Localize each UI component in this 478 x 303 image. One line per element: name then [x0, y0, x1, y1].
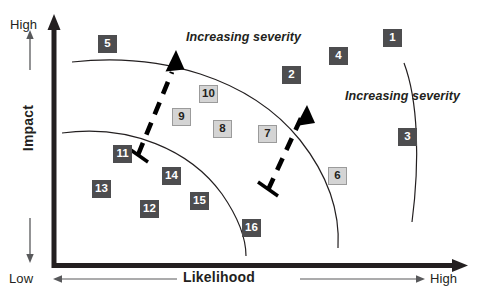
- increasing-severity-arrow-1: [128, 50, 185, 162]
- increasing-severity-label-1: Increasing severity: [186, 30, 301, 44]
- risk-box-10: 10: [199, 85, 218, 103]
- risk-matrix-canvas: [0, 0, 478, 303]
- severity-tick-2: [258, 182, 278, 196]
- y-axis-high-label: High: [10, 17, 37, 32]
- y-axis: [48, 14, 61, 268]
- impact-direction-arrow-low: [26, 218, 33, 263]
- x-axis: [52, 259, 468, 272]
- y-axis-title: Impact: [20, 93, 36, 163]
- y-axis-arrowhead: [48, 14, 61, 30]
- risk-matrix-figure: High Low High Impact Likelihood Increasi…: [0, 0, 478, 303]
- risk-box-1: 1: [383, 29, 402, 47]
- risk-box-8: 8: [213, 120, 232, 138]
- risk-box-4: 4: [329, 47, 348, 65]
- risk-box-16: 16: [242, 219, 261, 237]
- x-axis-low-label: Low: [9, 271, 33, 286]
- risk-box-2: 2: [282, 66, 301, 84]
- risk-box-5: 5: [98, 35, 117, 53]
- risk-box-14: 14: [162, 167, 181, 185]
- risk-box-3: 3: [398, 128, 417, 146]
- x-axis-title: Likelihood: [183, 269, 255, 285]
- risk-box-7: 7: [258, 125, 277, 143]
- risk-box-15: 15: [190, 192, 209, 210]
- band-curve-inner: [62, 131, 246, 256]
- increasing-severity-arrow-2: [258, 105, 315, 196]
- risk-box-13: 13: [92, 180, 111, 198]
- risk-box-9: 9: [172, 108, 191, 126]
- increasing-severity-label-2: Increasing severity: [345, 89, 460, 103]
- likelihood-direction-arrow-right: [300, 275, 425, 283]
- risk-box-11: 11: [113, 145, 132, 163]
- impact-direction-arrow: [26, 30, 33, 70]
- risk-box-12: 12: [140, 200, 159, 218]
- risk-box-6: 6: [328, 167, 347, 185]
- likelihood-direction-arrow-left: [53, 275, 177, 283]
- x-axis-high-label: High: [430, 271, 457, 286]
